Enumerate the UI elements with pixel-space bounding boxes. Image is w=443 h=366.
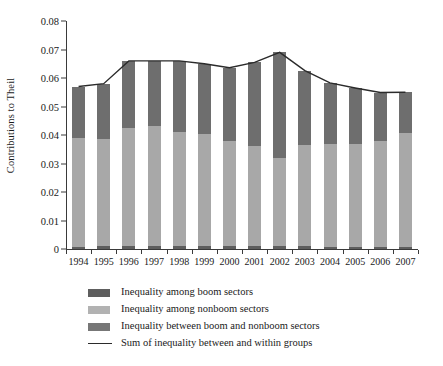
x-tick-mark bbox=[267, 250, 268, 254]
x-tick-label: 2000 bbox=[219, 256, 239, 267]
bar-segment-between bbox=[374, 247, 387, 249]
bar-segment-boom bbox=[198, 64, 211, 135]
x-tick-mark bbox=[192, 250, 193, 254]
x-axis-ticks: 1994199519961997199819992000200120022003… bbox=[66, 250, 418, 272]
bar-stack bbox=[324, 21, 337, 249]
legend-label: Sum of inequality between and within gro… bbox=[121, 338, 312, 349]
x-tick-mark bbox=[393, 250, 394, 254]
bar-segment-boom bbox=[72, 87, 85, 138]
chart-container: Contributions to Theil 00.010.020.030.04… bbox=[0, 0, 443, 366]
legend-item: Inequality between boom and nonboom sect… bbox=[88, 318, 418, 335]
bar-stack bbox=[223, 21, 236, 249]
bar-stack bbox=[148, 21, 161, 249]
x-tick-label: 2007 bbox=[395, 256, 415, 267]
bar-stack bbox=[374, 21, 387, 249]
x-tick-label: 2003 bbox=[295, 256, 315, 267]
x-tick-label: 2005 bbox=[345, 256, 365, 267]
bar-segment-between bbox=[173, 246, 186, 249]
bar-segment-nonboom bbox=[273, 158, 286, 247]
bar-segment-between bbox=[349, 247, 362, 249]
bar-stack bbox=[248, 21, 261, 249]
bar-segment-boom bbox=[148, 61, 161, 127]
bar-segment-between bbox=[223, 246, 236, 249]
bar-segment-nonboom bbox=[248, 146, 261, 246]
bar-segment-nonboom bbox=[173, 132, 186, 247]
bar-segment-boom bbox=[97, 84, 110, 140]
legend-label: Inequality among boom sectors bbox=[121, 287, 253, 298]
bar-segment-between bbox=[324, 247, 337, 249]
x-tick-label: 1995 bbox=[94, 256, 114, 267]
legend-item: Sum of inequality between and within gro… bbox=[88, 335, 418, 352]
bar-segment-boom bbox=[248, 62, 261, 146]
plot-area: 00.010.020.030.040.050.060.070.08 bbox=[66, 21, 418, 249]
bar-segment-nonboom bbox=[148, 126, 161, 246]
bar-segment-between bbox=[122, 246, 135, 249]
bar-stack bbox=[122, 21, 135, 249]
bar-segment-nonboom bbox=[122, 128, 135, 246]
bar-segment-between bbox=[97, 246, 110, 249]
x-tick-mark bbox=[418, 250, 419, 254]
x-tick-mark bbox=[66, 250, 67, 254]
bar-segment-boom bbox=[399, 92, 412, 133]
bar-segment-between bbox=[298, 246, 311, 249]
bar-segment-boom bbox=[374, 93, 387, 141]
bar-group bbox=[66, 21, 418, 249]
bar-segment-between bbox=[248, 246, 261, 249]
x-tick-label: 1996 bbox=[119, 256, 139, 267]
bar-stack bbox=[298, 21, 311, 249]
bar-segment-between bbox=[273, 246, 286, 249]
bar-segment-nonboom bbox=[399, 133, 412, 246]
bar-segment-between bbox=[198, 246, 211, 249]
bar-segment-boom bbox=[298, 71, 311, 146]
x-tick-label: 2001 bbox=[245, 256, 265, 267]
legend-swatch bbox=[88, 289, 110, 297]
chart-legend: Inequality among boom sectorsInequality … bbox=[88, 284, 418, 352]
bar-segment-nonboom bbox=[349, 144, 362, 247]
legend-swatch bbox=[88, 323, 110, 331]
x-tick-mark bbox=[167, 250, 168, 254]
bar-segment-nonboom bbox=[374, 141, 387, 247]
x-tick-label: 2006 bbox=[370, 256, 390, 267]
bar-segment-nonboom bbox=[223, 141, 236, 246]
bar-segment-nonboom bbox=[97, 139, 110, 246]
bar-segment-boom bbox=[223, 68, 236, 141]
bar-stack bbox=[399, 21, 412, 249]
bar-segment-nonboom bbox=[298, 145, 311, 246]
x-tick-mark bbox=[116, 250, 117, 254]
y-axis-title-text: Contributions to Theil bbox=[6, 77, 17, 172]
bar-stack bbox=[173, 21, 186, 249]
bar-stack bbox=[273, 21, 286, 249]
bar-segment-between bbox=[72, 247, 85, 249]
x-tick-label: 1999 bbox=[194, 256, 214, 267]
legend-label: Inequality between boom and nonboom sect… bbox=[121, 321, 320, 332]
bar-segment-boom bbox=[324, 83, 337, 144]
x-tick-mark bbox=[242, 250, 243, 254]
bar-segment-boom bbox=[173, 61, 186, 132]
bar-segment-nonboom bbox=[198, 134, 211, 246]
x-tick-mark bbox=[91, 250, 92, 254]
x-tick-label: 1994 bbox=[69, 256, 89, 267]
bar-stack bbox=[198, 21, 211, 249]
x-tick-mark bbox=[343, 250, 344, 254]
x-tick-mark bbox=[368, 250, 369, 254]
legend-swatch bbox=[88, 306, 110, 314]
x-tick-label: 2002 bbox=[270, 256, 290, 267]
bar-segment-boom bbox=[349, 88, 362, 144]
x-tick-mark bbox=[141, 250, 142, 254]
bar-segment-between bbox=[148, 246, 161, 249]
bar-stack bbox=[97, 21, 110, 249]
legend-label: Inequality among nonboom sectors bbox=[121, 304, 269, 315]
y-axis-title: Contributions to Theil bbox=[2, 0, 20, 250]
legend-item: Inequality among nonboom sectors bbox=[88, 301, 418, 318]
x-tick-label: 2004 bbox=[320, 256, 340, 267]
bar-segment-nonboom bbox=[324, 144, 337, 247]
x-tick-mark bbox=[317, 250, 318, 254]
bar-segment-boom bbox=[122, 61, 135, 128]
bar-stack bbox=[72, 21, 85, 249]
legend-line-marker bbox=[88, 343, 112, 344]
x-tick-label: 1998 bbox=[169, 256, 189, 267]
bar-segment-boom bbox=[273, 52, 286, 157]
x-tick-label: 1997 bbox=[144, 256, 164, 267]
x-tick-mark bbox=[292, 250, 293, 254]
bar-segment-between bbox=[399, 247, 412, 249]
